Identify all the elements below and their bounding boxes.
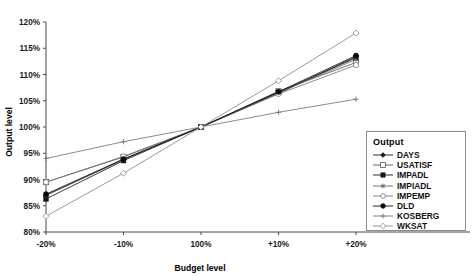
legend-marker-open-square-icon (372, 160, 394, 170)
chart-series-layer (43, 30, 359, 219)
x-tick-label: 100% (191, 240, 213, 249)
legend-item-impemp[interactable]: IMPEMP (372, 191, 465, 201)
legend-item-usatisf[interactable]: USATISF (372, 160, 465, 170)
data-point-filled-circle (43, 192, 48, 197)
y-tick-label: 110% (20, 71, 41, 80)
legend-item-impadl[interactable]: IMPADL (372, 170, 465, 180)
data-point-plus (381, 214, 386, 219)
data-point-open-diamond (353, 30, 359, 36)
data-point-filled-circle (353, 53, 358, 58)
y-tick-label: 90% (24, 176, 41, 185)
data-point-filled-circle (381, 204, 386, 209)
data-point-open-diamond (43, 213, 49, 219)
legend-label: DAYS (397, 150, 420, 160)
data-point-open-circle (381, 193, 386, 198)
legend-marker-star-icon (372, 181, 394, 191)
data-point-open-circle (353, 62, 358, 67)
y-tick-label: 120% (19, 18, 41, 27)
x-tick-label: +20% (345, 240, 367, 249)
data-point-filled-square (381, 173, 385, 177)
data-point-open-square (381, 163, 386, 168)
legend-marker-plus-icon (372, 211, 394, 221)
legend-label: IMPEMP (397, 191, 430, 201)
data-point-star (381, 183, 386, 188)
y-tick-label: 80% (24, 228, 41, 237)
data-point-plus (121, 139, 126, 144)
data-point-plus (276, 110, 281, 115)
legend-label: USATISF (397, 160, 432, 170)
data-point-filled-circle (276, 89, 281, 94)
chart-legend: Output DAYSUSATISFIMPADLIMPIADLIMPEMPDLD… (366, 131, 466, 231)
legend-item-dld[interactable]: DLD (372, 201, 465, 211)
legend-item-impiadl[interactable]: IMPIADL (372, 181, 465, 191)
legend-item-kosberg[interactable]: KOSBERG (372, 211, 465, 221)
legend-label: IMPIADL (397, 181, 431, 191)
legend-item-days[interactable]: DAYS (372, 150, 465, 160)
legend-title: Output (373, 137, 465, 147)
series-wksat (43, 30, 359, 219)
data-point-open-diamond (121, 170, 127, 176)
data-point-plus (43, 156, 48, 161)
x-tick-label: -20% (36, 240, 56, 249)
legend-marker-filled-square-icon (372, 170, 394, 180)
data-point-open-circle (43, 180, 48, 185)
chart-container: 80%85%90%95%100%105%110%115%120% -20%-10… (0, 0, 474, 276)
legend-marker-filled-circle-icon (372, 201, 394, 211)
data-point-plus (353, 97, 358, 102)
y-tick-label: 95% (24, 149, 41, 158)
y-tick-label: 105% (19, 97, 41, 106)
y-axis-tick-labels: 80%85%90%95%100%105%110%115%120% (19, 18, 41, 237)
x-axis-title: Budget level (174, 263, 225, 273)
x-axis-tick-labels: -20%-10%100%+10%+20% (36, 240, 367, 249)
x-tick-label: -10% (114, 240, 134, 249)
data-point-filled-diamond (381, 153, 386, 158)
x-tick-label: +10% (268, 240, 290, 249)
legend-marker-open-diamond-icon (372, 221, 394, 231)
y-tick-label: 115% (20, 44, 41, 53)
legend-rows: DAYSUSATISFIMPADLIMPIADLIMPEMPDLDKOSBERG… (367, 150, 465, 232)
y-axis-title: Output level (4, 107, 14, 157)
series-line-usatisf (46, 62, 356, 182)
legend-marker-filled-diamond-icon (372, 150, 394, 160)
data-point-open-diamond (276, 78, 282, 84)
data-point-filled-circle (121, 156, 126, 161)
legend-label: KOSBERG (397, 211, 439, 221)
legend-marker-open-circle-icon (372, 191, 394, 201)
legend-label: WKSAT (397, 221, 427, 231)
data-point-open-diamond (380, 224, 386, 230)
legend-label: DLD (397, 201, 414, 211)
legend-item-wksat[interactable]: WKSAT (372, 221, 465, 231)
y-tick-label: 85% (24, 202, 41, 211)
y-tick-label: 100% (19, 123, 41, 132)
legend-label: IMPADL (397, 170, 428, 180)
